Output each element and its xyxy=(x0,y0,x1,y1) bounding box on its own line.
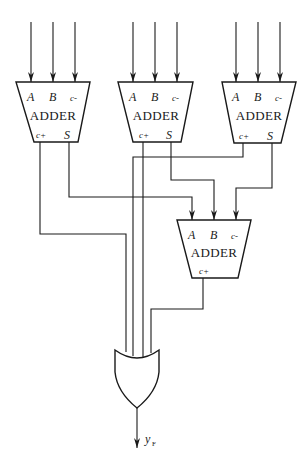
adder-2-title: ADDER xyxy=(133,108,179,123)
adder-1-input-arrows xyxy=(31,22,75,82)
adder-1-port-a: A xyxy=(26,90,35,104)
adder-1-port-s: S xyxy=(64,128,70,142)
output-yf: y F xyxy=(137,408,156,448)
wire-adder4-carry-to-or xyxy=(151,278,203,353)
wire-adder1-sum-to-adder4-a xyxy=(69,142,192,220)
adder-3: A B c- ADDER c+ S xyxy=(222,82,296,143)
adder-1-port-b: B xyxy=(49,90,57,104)
adder-3-port-b: B xyxy=(254,90,262,104)
adder-3-port-cin: c- xyxy=(275,93,282,103)
adder-3-port-s: S xyxy=(267,129,273,143)
adder-4-port-cin: c- xyxy=(231,231,238,241)
adder-3-port-cout: c+ xyxy=(239,131,249,141)
adder-2-port-cin: c- xyxy=(172,93,179,103)
adder-2-input-arrows xyxy=(133,22,177,82)
adder-1-title: ADDER xyxy=(30,108,76,123)
adder-2-port-b: B xyxy=(151,90,159,104)
or-gate xyxy=(115,350,159,408)
adder-3-port-a: A xyxy=(231,90,240,104)
wire-adder1-carry-to-or xyxy=(40,142,126,352)
adder-4-port-b: B xyxy=(210,228,218,242)
output-label-subscript: F xyxy=(152,440,156,448)
adder-circuit-diagram: A B c- ADDER c+ S A B c- ADDER c+ S A B … xyxy=(0,0,308,460)
adder-1: A B c- ADDER c+ S xyxy=(16,82,90,142)
adder-3-input-arrows xyxy=(236,22,280,82)
adder-1-port-cout: c+ xyxy=(36,130,46,140)
adder-1-port-cin: c- xyxy=(70,93,77,103)
adder-4-port-a: A xyxy=(187,228,196,242)
output-label: y xyxy=(144,432,151,446)
adder-2-port-a: A xyxy=(128,90,137,104)
adder-3-title: ADDER xyxy=(236,108,282,123)
adder-4-title: ADDER xyxy=(191,245,237,260)
adder-2-port-cout: c+ xyxy=(139,130,149,140)
adder-2: A B c- ADDER c+ S xyxy=(118,82,193,142)
adder-2-port-s: S xyxy=(166,128,172,142)
wire-adder3-sum-to-adder4-cin xyxy=(236,143,272,220)
adder-4: A B c- ADDER c+ xyxy=(177,220,251,278)
adder-4-port-cout: c+ xyxy=(199,266,209,276)
